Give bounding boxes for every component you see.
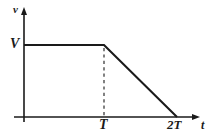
y-axis-label: v <box>13 4 18 15</box>
x-axis-arrowhead <box>192 114 200 120</box>
y-axis-tick-label-V: V <box>10 37 19 51</box>
x-axis-tick-label-T: T <box>99 118 108 132</box>
x-axis-tick-label-2T: 2T <box>167 118 181 131</box>
velocity-curve <box>24 45 177 117</box>
graph-canvas <box>0 0 218 135</box>
y-axis-arrowhead <box>21 7 27 15</box>
velocity-time-graph-figure: v V T 2T t <box>0 0 218 135</box>
x-axis-label: t <box>201 119 204 131</box>
